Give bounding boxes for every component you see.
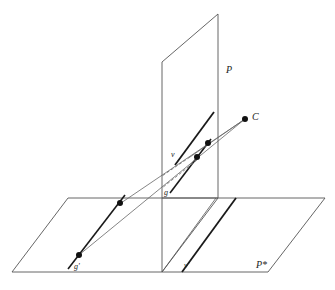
point-g-prime-upper [117,200,123,206]
projection-diagram: P C v g g' v' P* [0,0,335,290]
point-on-v [205,140,211,146]
label-v: v [171,150,175,159]
point-g-prime-lower [76,252,82,258]
point-on-g [194,154,200,160]
label-P-star: P* [255,259,267,270]
line-g-prime [68,195,125,269]
label-v-prime: v' [184,261,190,270]
label-P: P [225,64,232,75]
label-C: C [252,111,259,122]
ground-plane-P-star [12,198,325,272]
point-C [242,116,248,122]
label-g: g [164,188,168,197]
ray-C-to-v [190,119,245,157]
label-g-prime: g' [74,262,80,271]
